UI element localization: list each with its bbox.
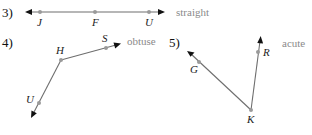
- answer-text: obtuse: [127, 35, 156, 47]
- point-j: [38, 10, 42, 14]
- point-r: [256, 50, 260, 54]
- answer-text: acute: [282, 37, 305, 49]
- answer-text: straight: [176, 6, 209, 18]
- problem-3: 3) J F U straight: [2, 5, 209, 28]
- label-j: J: [37, 16, 43, 28]
- label-s: S: [102, 32, 108, 44]
- arrowhead-left-icon: [25, 9, 32, 15]
- vertex-h: [59, 58, 63, 62]
- label-f: F: [91, 16, 99, 28]
- problem-number: 5): [169, 35, 180, 50]
- vertex-k: [249, 108, 253, 112]
- point-f: [93, 10, 97, 14]
- label-g: G: [190, 63, 198, 75]
- angle-exercises-figure: 3) J F U straight 4) H S U obtuse 5): [0, 0, 312, 135]
- label-r: R: [262, 46, 270, 58]
- point-u: [147, 10, 151, 14]
- arrowhead-r-icon: [257, 36, 263, 44]
- point-u: [37, 101, 41, 105]
- label-u: U: [145, 16, 154, 28]
- problem-4: 4) H S U obtuse: [2, 32, 156, 118]
- problem-number: 4): [2, 35, 13, 50]
- arrowhead-right-icon: [158, 9, 165, 15]
- point-s: [104, 46, 108, 50]
- label-h: H: [55, 44, 65, 56]
- arrowhead-s-icon: [114, 43, 122, 49]
- label-k: K: [246, 113, 255, 125]
- label-u: U: [26, 93, 35, 105]
- problem-5: 5) G R K acute: [169, 35, 305, 125]
- ray-hu: [33, 60, 61, 114]
- problem-number: 3): [2, 5, 13, 20]
